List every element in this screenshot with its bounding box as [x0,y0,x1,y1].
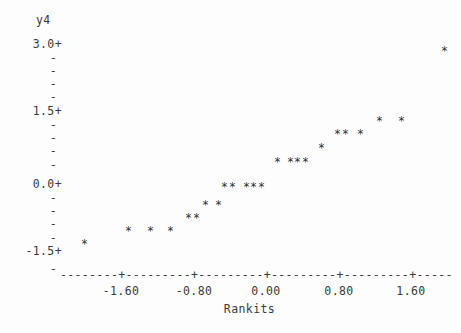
y-axis-tick-major: -1.5+ [0,246,62,258]
data-point-marker: * [193,213,200,225]
x-axis-tick-label: -0.80 [164,286,224,298]
y-axis-tick-minor: - [0,133,57,145]
data-point-marker: * [185,213,192,225]
y-axis-tick-minor: - [0,66,57,78]
x-axis-tick-label: 0.80 [309,286,369,298]
data-point-marker: * [274,157,281,169]
data-point-marker: * [334,129,341,141]
data-point-marker: * [221,182,228,194]
data-point-marker: * [229,182,236,194]
x-axis-tick-label: 0.00 [236,286,296,298]
y-axis-tick-major: 1.5+ [0,106,62,118]
data-point-marker: * [81,239,88,251]
y-axis-tick-minor: - [0,219,57,231]
data-point-marker: * [202,200,209,212]
data-point-marker: * [318,143,325,155]
x-axis-title-text: Rankits [224,302,275,316]
y-axis-title: y4 [36,13,51,27]
data-point-marker: * [441,46,448,58]
y-axis-tick-major: 3.0+ [0,39,62,51]
x-axis-tick-label: -1.60 [91,286,151,298]
character-plot-canvas: y4 3.0+----1.5+----0.0+-----1.5+- ******… [0,0,461,333]
data-point-marker: * [147,226,154,238]
y-axis-tick-minor: - [0,206,57,218]
y-axis-tick-minor: - [0,233,57,245]
data-point-marker: * [376,116,383,128]
y-axis-tick-minor: - [0,53,57,65]
data-point-marker: * [287,157,294,169]
y-axis-tick-major: 0.0+ [0,179,62,191]
x-axis-tick-label: 1.60 [381,286,441,298]
data-point-marker: * [250,182,257,194]
y-axis-tick-minor: - [0,92,57,104]
data-point-marker: * [243,182,250,194]
y-axis-tick-minor: - [0,146,57,158]
x-axis-line: --------+---------+---------+---------+-… [60,270,453,282]
data-point-marker: * [302,157,309,169]
data-point-marker: * [215,200,222,212]
x-axis-title: Rankits [0,304,461,316]
data-point-marker: * [125,226,132,238]
data-point-marker: * [294,157,301,169]
data-point-marker: * [398,116,405,128]
data-point-marker: * [258,182,265,194]
y-axis-tick-minor: - [0,79,57,91]
data-point-marker: * [357,129,364,141]
data-point-marker: * [167,226,174,238]
y-axis-tick-minor: - [0,264,57,276]
data-point-marker: * [342,129,349,141]
y-axis-tick-minor: - [0,160,57,172]
y-axis-tick-minor: - [0,193,57,205]
y-axis-tick-minor: - [0,120,57,132]
